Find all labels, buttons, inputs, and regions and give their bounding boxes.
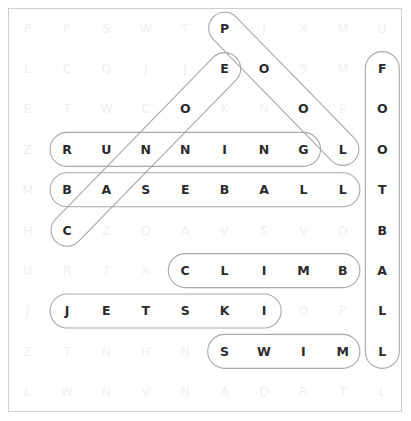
grid-cell[interactable]: B [205,170,244,210]
grid-cell[interactable]: N [244,129,283,169]
grid-cell[interactable]: L [8,48,47,88]
grid-cell[interactable]: P [323,291,362,331]
grid-cell[interactable]: W [126,8,165,48]
grid-cell[interactable]: U [363,8,402,48]
grid-cell[interactable]: E [8,89,47,129]
grid-cell[interactable]: E [205,48,244,88]
grid-cell[interactable]: F [323,89,362,129]
grid-cell[interactable]: M [323,48,362,88]
grid-cell[interactable]: O [323,210,362,250]
grid-cell[interactable]: M [323,331,362,371]
grid-cell[interactable]: T [126,291,165,331]
grid-cell[interactable]: V [126,372,165,412]
grid-cell[interactable]: X [284,8,323,48]
grid-cell[interactable]: E [166,170,205,210]
letter-grid[interactable]: PPSWTPIXMULCQJJEOSMFETWCOKNOFOZRUNNINGLO… [8,8,402,412]
grid-cell[interactable]: S [166,291,205,331]
grid-cell[interactable]: D [244,372,283,412]
grid-cell[interactable]: A [244,170,283,210]
grid-cell[interactable]: N [166,129,205,169]
grid-cell[interactable]: E [87,291,126,331]
grid-cell[interactable]: Q [87,48,126,88]
grid-cell[interactable]: I [284,331,323,371]
grid-cell[interactable]: T [87,250,126,290]
grid-cell[interactable]: K [205,89,244,129]
grid-cell[interactable]: L [205,250,244,290]
grid-cell[interactable]: A [205,372,244,412]
grid-cell[interactable]: N [244,89,283,129]
grid-cell[interactable]: F [363,48,402,88]
grid-cell[interactable]: L [363,372,402,412]
grid-cell[interactable]: U [87,129,126,169]
grid-cell[interactable]: H [8,210,47,250]
grid-cell[interactable]: A [166,210,205,250]
grid-cell[interactable]: C [47,48,86,88]
grid-cell[interactable]: K [205,291,244,331]
grid-cell[interactable]: R [47,129,86,169]
grid-cell[interactable]: I [244,291,283,331]
grid-cell[interactable]: N [126,129,165,169]
grid-cell[interactable]: I [205,129,244,169]
grid-cell[interactable]: M [323,8,362,48]
grid-cell[interactable]: N [166,331,205,371]
grid-cell[interactable]: I [244,250,283,290]
grid-cell[interactable]: Z [8,129,47,169]
grid-cell[interactable]: B [323,250,362,290]
grid-cell[interactable]: W [87,89,126,129]
grid-cell[interactable]: B [47,170,86,210]
grid-cell[interactable]: N [87,331,126,371]
grid-cell[interactable]: M [284,250,323,290]
grid-cell[interactable]: H [126,331,165,371]
grid-cell[interactable]: O [284,89,323,129]
grid-cell[interactable]: W [47,372,86,412]
grid-cell[interactable]: Z [8,331,47,371]
grid-cell[interactable]: U [8,250,47,290]
grid-cell[interactable]: L [363,331,402,371]
grid-cell[interactable]: Q [126,210,165,250]
grid-cell[interactable]: G [284,129,323,169]
grid-cell[interactable]: V [284,210,323,250]
grid-cell[interactable]: S [244,210,283,250]
grid-cell[interactable]: Z [87,210,126,250]
grid-cell[interactable]: O [244,48,283,88]
grid-cell[interactable]: W [244,331,283,371]
grid-cell[interactable]: S [205,331,244,371]
grid-cell[interactable]: O [363,89,402,129]
grid-cell[interactable]: P [8,8,47,48]
grid-cell[interactable]: L [363,291,402,331]
grid-cell[interactable]: R [284,372,323,412]
grid-cell[interactable]: A [363,250,402,290]
grid-cell[interactable]: N [87,372,126,412]
grid-cell[interactable]: J [166,48,205,88]
grid-cell[interactable]: O [284,291,323,331]
grid-cell[interactable]: N [166,372,205,412]
grid-cell[interactable]: O [166,89,205,129]
grid-cell[interactable]: L [323,170,362,210]
grid-cell[interactable]: J [126,48,165,88]
grid-cell[interactable]: J [47,291,86,331]
grid-cell[interactable]: I [244,8,283,48]
grid-cell[interactable]: A [87,170,126,210]
grid-cell[interactable]: T [47,331,86,371]
grid-cell[interactable]: V [205,210,244,250]
grid-cell[interactable]: L [8,372,47,412]
grid-cell[interactable]: T [166,8,205,48]
grid-cell[interactable]: C [47,210,86,250]
grid-cell[interactable]: R [47,250,86,290]
grid-cell[interactable]: P [47,8,86,48]
grid-cell[interactable]: B [363,210,402,250]
grid-cell[interactable]: O [363,129,402,169]
grid-cell[interactable]: S [284,48,323,88]
grid-cell[interactable]: T [323,372,362,412]
grid-cell[interactable]: T [363,170,402,210]
grid-cell[interactable]: M [8,170,47,210]
grid-cell[interactable]: J [8,291,47,331]
grid-cell[interactable]: L [284,170,323,210]
grid-cell[interactable]: S [126,170,165,210]
grid-cell[interactable]: L [323,129,362,169]
grid-cell[interactable]: X [126,250,165,290]
grid-cell[interactable]: T [47,89,86,129]
grid-cell[interactable]: P [205,8,244,48]
grid-cell[interactable]: S [87,8,126,48]
grid-cell[interactable]: C [126,89,165,129]
